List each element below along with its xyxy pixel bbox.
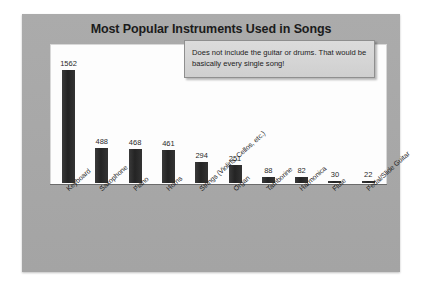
bar-value-label: 1562 (52, 59, 85, 68)
bar-value-label: 488 (85, 137, 118, 146)
bar-item: 1562 (52, 59, 85, 184)
bar-rect (62, 70, 75, 183)
page-title: Most Popular Instruments Used in Songs (22, 22, 400, 36)
callout-textbox[interactable]: Does not include the guitar or drums. Th… (184, 40, 375, 78)
bar-rect (129, 149, 142, 183)
slide-canvas: Most Popular Instruments Used in Songs 1… (22, 14, 400, 272)
bar-value-label: 461 (152, 139, 185, 148)
bar-value-label: 294 (185, 151, 218, 160)
bar-value-label: 468 (119, 138, 152, 147)
